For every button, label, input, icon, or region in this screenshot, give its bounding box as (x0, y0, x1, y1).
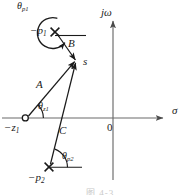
origin-label: 0 (107, 122, 113, 133)
pole2-label: −p2 (28, 172, 45, 185)
vector-b-label: B (68, 38, 75, 49)
theta-z1-subscript: z1 (43, 105, 49, 112)
pole-zero-diagram-figure: θp1 −p1 B s jω σ 0 A θz1 −z1 C θp2 −p2 图… (0, 0, 187, 195)
theta-p1-label: θp1 (17, 1, 29, 12)
theta-p2-subscript: p2 (67, 155, 74, 162)
pole1-label: −p1 (30, 25, 47, 38)
theta-z1-label: θz1 (38, 101, 49, 112)
test-point-label: s (83, 56, 87, 67)
zero1-label: −z1 (4, 122, 19, 135)
vector-c-line (51, 63, 76, 164)
theta-p2-label: θp2 (62, 151, 74, 162)
splane-drawing (0, 0, 187, 195)
real-axis-label: σ (172, 105, 177, 116)
theta-p1-subscript: p1 (22, 5, 29, 12)
figure-caption: 图 4-3 (86, 186, 114, 195)
zero1-circle-marker (22, 115, 28, 121)
vector-c-label: C (59, 125, 66, 136)
imaginary-axis-label: jω (101, 7, 112, 18)
vector-a-label: A (36, 79, 43, 90)
